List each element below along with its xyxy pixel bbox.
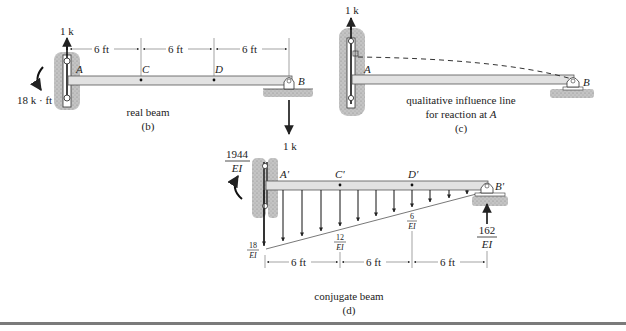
moment-label: 18 k · ft — [17, 94, 52, 106]
point-b-label-c: B — [583, 76, 590, 88]
dim-label-3: 6 ft — [242, 43, 257, 55]
load-a-denominator: EI — [248, 251, 257, 260]
point-a-label: A — [75, 63, 83, 75]
caption-c-label: (c) — [455, 122, 468, 135]
dim-label-2: 6 ft — [168, 43, 183, 55]
load-triangle-edge — [266, 192, 484, 249]
load-c-denominator: EI — [335, 243, 344, 252]
caption-d: conjugate beam — [314, 290, 384, 302]
moment-denominator: EI — [231, 162, 244, 174]
figure-b-real-beam: 1 k A C D 6 ft 6 ft 6 ft 18 k · ft B — [17, 25, 313, 152]
bottom-divider — [0, 322, 626, 325]
reaction-numerator: 162 — [479, 224, 496, 236]
load-d-denominator: EI — [407, 222, 416, 231]
reaction-denominator: EI — [481, 238, 494, 250]
moment-numerator: 1944 — [226, 148, 249, 160]
caption-b: real beam — [126, 106, 169, 118]
moment-arrow-icon — [37, 67, 43, 90]
beam-diagram: 1 k A C D 6 ft 6 ft 6 ft 18 k · ft B — [0, 0, 626, 331]
caption-b-label: (b) — [142, 120, 155, 133]
dim-label-d1: 6 ft — [291, 256, 306, 268]
point-a-prime-label: A' — [279, 168, 290, 180]
load-bottom-label: 1 k — [283, 140, 297, 152]
point-c-prime-label: C' — [335, 168, 345, 180]
conjugate-beam — [266, 181, 488, 190]
point-a-label-c: A — [363, 63, 371, 75]
beam-c — [352, 75, 574, 84]
point-b-prime-label: B' — [495, 180, 505, 192]
load-d-numerator: 6 — [410, 212, 414, 221]
dim-label-d2: 6 ft — [366, 256, 381, 268]
caption-d-label: (d) — [343, 304, 356, 317]
point-d-label: D — [214, 63, 223, 75]
point-b-label: B — [298, 75, 305, 87]
load-a-numerator: 18 — [249, 241, 257, 250]
figure-d-conjugate-beam: 1944 EI 1 k A' C' D' 18 EI — [213, 148, 508, 317]
real-beam — [68, 76, 292, 85]
load-c-numerator: 12 — [336, 233, 344, 242]
load-top-label: 1 k — [60, 25, 74, 37]
caption-c-line1: qualitative influence line — [406, 94, 515, 106]
load-top-label-c: 1 k — [345, 4, 359, 16]
dim-label-d3: 6 ft — [440, 256, 455, 268]
distributed-load-arrows — [264, 190, 467, 245]
dim-label-1: 6 ft — [94, 43, 109, 55]
moment-arrow-icon — [235, 176, 242, 199]
figure-c-influence-line: 1 k A B qualitative influence line for r… — [339, 4, 594, 135]
caption-c-line2: for reaction at A — [425, 108, 496, 120]
point-d-prime-label: D' — [407, 168, 419, 180]
point-c-label: C — [142, 63, 150, 75]
